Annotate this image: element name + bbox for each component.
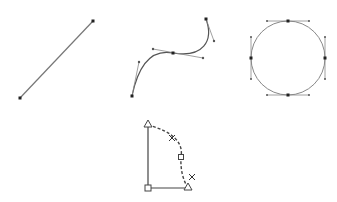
triangle-marker[interactable] [144,120,152,127]
anchor-point[interactable] [131,95,134,98]
triangle-marker[interactable] [184,183,192,190]
handle-point[interactable] [138,61,140,63]
anchor-point[interactable] [287,20,290,23]
straight-line-path[interactable] [19,20,95,100]
handle-point[interactable] [266,20,268,22]
drawing-canvas [0,0,337,202]
handle-point[interactable] [324,36,326,38]
handle-point[interactable] [152,48,154,50]
handle-point[interactable] [202,57,204,59]
paths-illustration [0,0,337,202]
handle-line [206,19,214,41]
handle-point[interactable] [250,78,252,80]
handle-point[interactable] [324,78,326,80]
x-marker[interactable] [189,174,195,180]
handle-point[interactable] [213,40,215,42]
handle-point[interactable] [250,36,252,38]
quarter-circle-shape[interactable] [144,120,195,191]
anchor-point[interactable] [19,97,22,100]
handle-point[interactable] [308,94,310,96]
anchor-point[interactable] [324,57,327,60]
handle-point[interactable] [308,20,310,22]
circle-path[interactable] [250,20,327,97]
bezier-curve-path[interactable] [131,18,216,98]
anchor-point[interactable] [92,20,95,23]
square-marker[interactable] [179,155,184,160]
anchor-point[interactable] [287,94,290,97]
anchor-point[interactable] [250,57,253,60]
handle-line [132,62,139,96]
handle-point[interactable] [266,94,268,96]
square-marker[interactable] [145,185,151,191]
anchor-point[interactable] [205,18,208,21]
anchor-point[interactable] [172,52,175,55]
